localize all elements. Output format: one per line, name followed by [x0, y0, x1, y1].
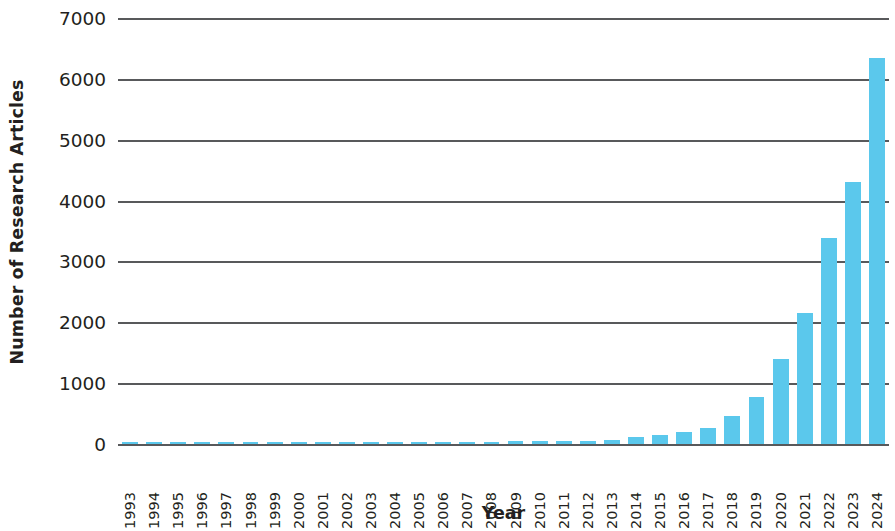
x-axis-title: Year: [118, 503, 889, 523]
bar-chart-figure: Number of Research Articles 700060005000…: [0, 0, 895, 531]
bar: [508, 441, 524, 444]
bar: [146, 442, 162, 445]
bar: [170, 442, 186, 445]
bar: [749, 397, 765, 444]
bar: [267, 442, 283, 445]
bar: [339, 442, 355, 445]
bar: [122, 442, 138, 445]
bar: [291, 442, 307, 445]
plot-area: [118, 18, 889, 444]
bar: [580, 441, 596, 444]
y-tick-label: 4000: [59, 190, 106, 211]
bar: [363, 442, 379, 445]
bar: [724, 416, 740, 444]
bar: [411, 442, 427, 445]
y-axis-title-label: Number of Research Articles: [7, 79, 27, 364]
bar-series: [118, 18, 889, 444]
bar: [484, 442, 500, 445]
bar: [797, 313, 813, 444]
bar: [315, 442, 331, 445]
y-axis-tick-labels: 70006000500040003000200010000: [34, 0, 114, 460]
y-tick-label: 1000: [59, 373, 106, 394]
bar: [700, 428, 716, 444]
bar: [652, 435, 668, 444]
y-tick-label: 3000: [59, 251, 106, 272]
bar: [845, 182, 861, 444]
bar: [218, 442, 234, 445]
y-tick-label: 5000: [59, 129, 106, 150]
bar: [628, 437, 644, 444]
x-axis-tick-labels: 1993199419951996199719981999200020012002…: [118, 446, 889, 498]
bar: [604, 440, 620, 444]
y-axis-title: Number of Research Articles: [0, 0, 34, 444]
bar: [869, 58, 885, 444]
bar: [194, 442, 210, 445]
bar: [773, 359, 789, 444]
bar: [435, 442, 451, 445]
bar: [676, 432, 692, 444]
bar: [556, 441, 572, 444]
bar: [532, 441, 548, 444]
y-tick-label: 6000: [59, 68, 106, 89]
bar: [821, 238, 837, 444]
y-tick-label: 2000: [59, 312, 106, 333]
y-tick-label: 0: [94, 434, 106, 455]
bar: [459, 442, 475, 445]
bar: [387, 442, 403, 445]
y-tick-label: 7000: [59, 8, 106, 29]
bar: [243, 442, 259, 445]
